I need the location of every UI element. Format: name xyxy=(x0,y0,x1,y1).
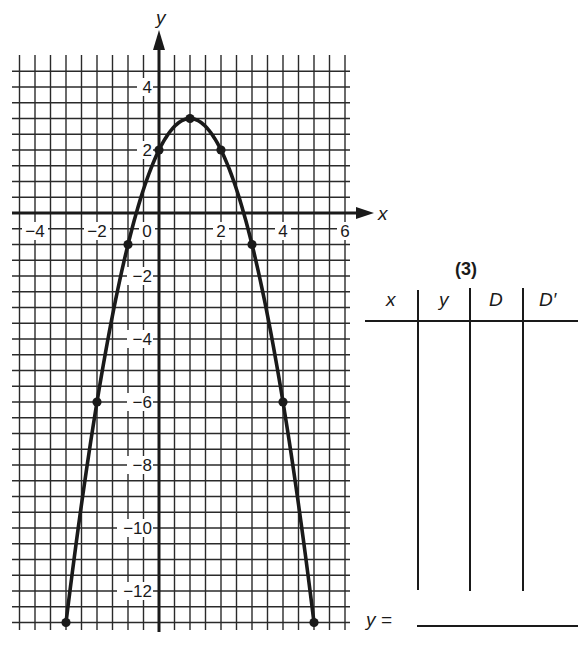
data-point-marker xyxy=(92,397,101,406)
y-tick-label: −4 xyxy=(133,330,152,349)
data-point-marker xyxy=(123,240,132,249)
x-tick-label: 2 xyxy=(216,222,225,241)
equation-label: y = xyxy=(364,609,392,630)
data-point-marker xyxy=(154,145,163,154)
column-header-d: D xyxy=(489,289,503,310)
value-table: (3) x y D D′ xyxy=(365,259,578,591)
y-tick-label: 4 xyxy=(143,78,152,97)
x-tick-label: 6 xyxy=(340,222,349,241)
y-tick-label: −8 xyxy=(133,456,152,475)
grid-lines xyxy=(12,55,350,630)
y-tick-label: −12 xyxy=(123,582,152,601)
data-point-marker xyxy=(61,618,70,627)
x-tick-label: 0 xyxy=(142,222,151,241)
worksheet: −4−2024642−2−4−6−8−10−12 y x (3) x y D D… xyxy=(0,0,581,648)
x-axis-arrow-icon xyxy=(356,207,374,219)
y-axis-label: y xyxy=(154,7,167,28)
y-tick-label: 2 xyxy=(143,141,152,160)
x-axis-label: x xyxy=(377,203,389,224)
data-point-marker xyxy=(247,240,256,249)
x-tick-label: −2 xyxy=(87,222,106,241)
equation-answer: y = xyxy=(364,609,578,630)
x-tick-label: −4 xyxy=(25,222,44,241)
column-header-x: x xyxy=(385,289,397,310)
y-tick-label: −6 xyxy=(133,393,152,412)
y-axis-arrow-icon xyxy=(153,30,165,50)
data-point-marker xyxy=(216,145,225,154)
data-point-marker xyxy=(309,618,318,627)
data-point-marker xyxy=(185,114,194,123)
parabola-graph: −4−2024642−2−4−6−8−10−12 y x (3) x y D D… xyxy=(0,0,581,648)
column-header-y: y xyxy=(437,289,450,310)
table-title: (3) xyxy=(455,259,477,279)
x-tick-label: 4 xyxy=(278,222,287,241)
y-tick-label: −2 xyxy=(133,267,152,286)
column-header-d-prime: D′ xyxy=(539,289,558,310)
data-point-marker xyxy=(278,397,287,406)
y-tick-label: −10 xyxy=(123,519,152,538)
